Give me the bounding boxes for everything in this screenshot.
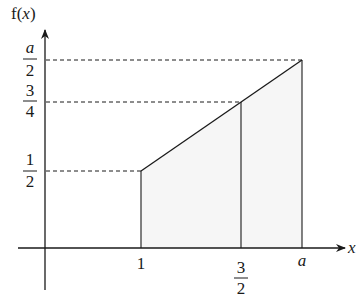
- y-tick-a-half: a 2: [23, 38, 37, 80]
- svg-text:3: 3: [237, 258, 246, 277]
- x-tick-a: a: [298, 251, 307, 270]
- chart: f(x) x a 2 3 4 1 2 1 3 2 a: [0, 0, 361, 303]
- svg-text:4: 4: [26, 102, 35, 121]
- svg-text:a: a: [26, 38, 35, 57]
- y-tick-three-quarters: 3 4: [23, 81, 37, 121]
- x-tick-three-halves: 3 2: [234, 258, 248, 298]
- svg-text:2: 2: [26, 61, 35, 80]
- svg-text:1: 1: [26, 150, 35, 169]
- x-tick-1: 1: [137, 254, 146, 273]
- svg-text:2: 2: [237, 279, 246, 298]
- svg-text:3: 3: [26, 81, 35, 100]
- y-axis-label: f(x): [11, 4, 36, 23]
- y-tick-half: 1 2: [23, 150, 37, 191]
- svg-text:2: 2: [26, 172, 35, 191]
- x-axis-label: x: [347, 238, 356, 257]
